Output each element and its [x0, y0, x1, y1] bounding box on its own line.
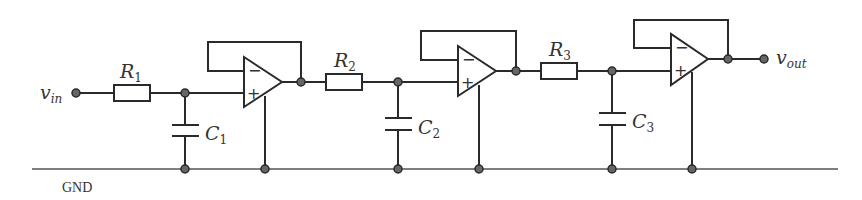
- circuit-diagram: GND − + − +: [0, 0, 862, 200]
- node: [261, 165, 269, 173]
- opamp-2-minus: −: [462, 50, 475, 69]
- c2-label: C2: [418, 116, 440, 141]
- r2-label: R2: [333, 49, 356, 74]
- stage-3: − +: [541, 20, 764, 169]
- resistor-r1: [114, 85, 150, 101]
- opamp-3-minus: −: [675, 38, 688, 57]
- stage-2: − +: [326, 31, 541, 169]
- input-terminal: [72, 89, 80, 97]
- output-terminal: [760, 55, 768, 63]
- opamp-3-plus: +: [674, 61, 687, 80]
- input-label: vin: [40, 81, 62, 106]
- node: [394, 78, 402, 86]
- r1-label: R1: [119, 60, 142, 85]
- node: [181, 89, 189, 97]
- c1-label: C1: [205, 122, 227, 147]
- node: [608, 165, 616, 173]
- c3-label: C3: [632, 110, 654, 135]
- opamp-1-plus: +: [247, 84, 260, 103]
- node: [688, 165, 696, 173]
- node: [608, 67, 616, 75]
- node: [181, 165, 189, 173]
- r3-label: R3: [548, 38, 571, 63]
- opamp-1-minus: −: [248, 61, 261, 80]
- node: [394, 165, 402, 173]
- output-label: vout: [776, 46, 807, 71]
- ground-label: GND: [62, 180, 92, 195]
- node: [724, 55, 732, 63]
- node: [297, 78, 305, 86]
- junction-nodes: [72, 55, 768, 173]
- opamp-2-plus: +: [461, 73, 474, 92]
- node: [475, 165, 483, 173]
- resistor-r2: [326, 74, 362, 90]
- resistor-r3: [541, 63, 577, 79]
- node: [512, 67, 520, 75]
